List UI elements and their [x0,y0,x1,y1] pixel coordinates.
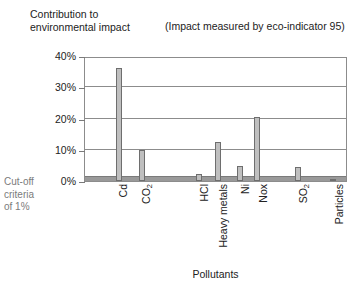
y-tick-30 [79,88,85,89]
bar-heavy-metals[interactable] [215,142,221,181]
bar-particles[interactable] [330,179,336,182]
y-tick-label-20: 20% [40,114,76,125]
x-label-particles: Particles [334,184,345,224]
x-label-nox: Nox [258,184,269,203]
chart-title: Contribution to environmental impact [30,8,175,33]
y-tick-label-30: 30% [40,82,76,93]
x-axis-title: Pollutants [84,268,347,280]
x-axis-category-labels: CdCO2HClHeavy metalsNiNoxSO2Particles [84,184,347,270]
y-tick-0 [79,182,85,183]
bar-ni[interactable] [237,166,243,181]
bar-co2[interactable] [139,150,145,181]
bar-nox[interactable] [254,117,260,181]
x-label-heavy-metals: Heavy metals [218,184,229,248]
x-label-so2: SO2 [298,184,310,203]
y-tick-label-wrap-40: 40% [40,51,76,62]
bar-hcl[interactable] [196,174,202,182]
bar-so2[interactable] [295,167,301,181]
y-tick-10 [79,151,85,152]
gridline-30 [85,86,346,87]
cutoff-annotation: Cut-off criteria of 1% [4,176,56,214]
gridline-20 [85,118,346,119]
bar-cd[interactable] [116,68,122,181]
y-tick-40 [79,57,85,58]
plot-area [84,57,347,182]
y-tick-label-wrap-20: 20% [40,114,76,125]
y-tick-label-10: 10% [40,145,76,156]
y-tick-label-wrap-10: 10% [40,145,76,156]
chart-subtitle: (Impact measured by eco-indicator 95) [165,20,345,33]
y-tick-label-40: 40% [40,51,76,62]
y-tick-20 [79,120,85,121]
y-tick-label-wrap-30: 30% [40,82,76,93]
x-label-ni: Ni [240,184,251,194]
x-label-hcl: HCl [199,184,210,202]
x-label-cd: Cd [118,184,129,197]
x-label-co2: CO2 [141,184,153,204]
eco-indicator-bar-chart: Contribution to environmental impact (Im… [0,0,357,288]
